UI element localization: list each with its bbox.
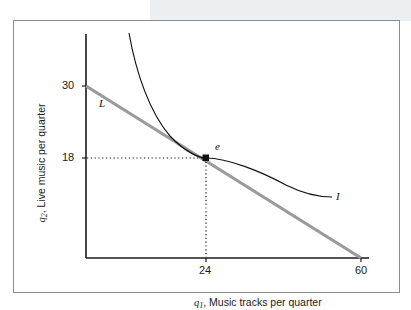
budget-line <box>86 86 361 258</box>
y-tick-label-18: 18 <box>62 151 74 163</box>
indifference-curve <box>129 33 332 197</box>
x-tick-label-24: 24 <box>199 264 211 276</box>
y-tick-label-30: 30 <box>62 79 74 91</box>
y-axis-title-var: q <box>36 217 47 222</box>
background-band <box>150 0 411 21</box>
y-axis-title-text: , Live music per quarter <box>35 104 47 214</box>
x-axis-title: q1, Music tracks per quarter <box>194 296 322 310</box>
budget-line-label: L <box>99 97 105 109</box>
optimum-point-label: e <box>215 140 220 152</box>
y-axis-title-sub: 2 <box>40 213 49 217</box>
x-tick-label-60: 60 <box>355 264 367 276</box>
figure-frame: 30 18 24 60 L I e q2, Live music per qua… <box>13 20 400 293</box>
optimum-point-marker <box>203 155 210 162</box>
indifference-curve-label: I <box>336 190 340 202</box>
y-axis-title: q2, Live music per quarter <box>35 78 49 248</box>
x-axis-title-text: , Music tracks per quarter <box>203 296 321 308</box>
